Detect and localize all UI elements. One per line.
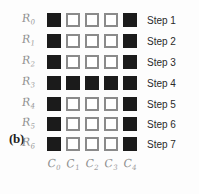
cell-empty [104, 34, 118, 48]
column-label-base: C [85, 157, 94, 170]
matrix-row: R2Step 3 [0, 52, 199, 72]
cell-filled [104, 76, 118, 90]
matrix-row-cells [47, 73, 137, 93]
column-label-subscript: 3 [113, 164, 118, 172]
cell-empty [85, 97, 99, 111]
cell-empty [66, 55, 80, 69]
column-label-subscript: 2 [94, 164, 99, 172]
step-label: Step 5 [147, 99, 176, 110]
step-label: Step 4 [147, 78, 176, 89]
matrix-row-cells [47, 114, 137, 134]
cell-empty [85, 137, 99, 151]
cell-empty [104, 55, 118, 69]
column-label: C1 [65, 156, 81, 173]
cell-filled [85, 76, 99, 90]
row-label-subscript: 3 [30, 82, 35, 90]
matrix-row: R4Step 5 [0, 94, 199, 114]
row-label: R6 [21, 135, 46, 152]
cell-empty [85, 55, 99, 69]
cell-filled [47, 117, 61, 131]
cell-filled [47, 34, 61, 48]
column-label: C0 [47, 157, 62, 173]
column-label: C3 [103, 156, 118, 172]
column-label-subscript: 4 [132, 164, 137, 172]
matrix-row: R0Step 1 [0, 10, 199, 30]
cell-filled [47, 76, 61, 90]
step-label: Step 2 [147, 36, 176, 47]
matrix-row: R5Step 6 [0, 114, 199, 134]
cell-filled [123, 97, 137, 111]
column-label-base: C [47, 157, 56, 170]
matrix-row: R6Step 7 [0, 134, 199, 154]
step-label: Step 7 [147, 139, 176, 150]
cell-empty [66, 137, 80, 151]
cell-filled [123, 34, 137, 48]
row-label-subscript: 2 [30, 61, 35, 69]
cell-empty [66, 97, 80, 111]
step-label: Step 1 [147, 15, 176, 26]
matrix-row-cells [47, 52, 137, 72]
matrix-row-cells [47, 134, 137, 154]
row-label-subscript: 6 [30, 143, 35, 151]
cell-filled [123, 137, 137, 151]
cell-empty [104, 117, 118, 131]
cell-filled [123, 117, 137, 131]
row-label: R1 [21, 32, 46, 49]
cell-empty [85, 117, 99, 131]
column-label: C4 [123, 157, 138, 173]
matrix-row: R1Step 2 [0, 31, 199, 51]
matrix-row: R3Step 4 [0, 73, 199, 93]
step-label: Step 6 [147, 119, 176, 130]
cell-filled [66, 76, 80, 90]
row-label: R3 [21, 74, 46, 91]
column-labels: C0C1C2C3C4 [47, 157, 137, 172]
step-label: Step 3 [147, 57, 176, 68]
row-label-subscript: 1 [30, 40, 35, 48]
cell-filled [47, 55, 61, 69]
column-label-subscript: 1 [75, 164, 80, 172]
matrix-step-diagram: (b) R0Step 1R1Step 2R2Step 3R3Step 4R4St… [0, 0, 199, 194]
cell-filled [47, 97, 61, 111]
cell-filled [123, 76, 137, 90]
cell-filled [47, 137, 61, 151]
row-label: R4 [21, 95, 46, 112]
row-label: R0 [21, 11, 46, 28]
row-label: R5 [21, 115, 46, 132]
cell-empty [66, 117, 80, 131]
row-label-subscript: 0 [30, 19, 35, 27]
cell-empty [66, 13, 80, 27]
column-label-base: C [123, 157, 132, 170]
cell-filled [123, 13, 137, 27]
cell-empty [66, 34, 80, 48]
cell-empty [85, 34, 99, 48]
cell-empty [104, 137, 118, 151]
cell-empty [85, 13, 99, 27]
row-label: R2 [21, 53, 46, 70]
matrix-row-cells [47, 10, 137, 30]
column-label-subscript: 0 [56, 164, 61, 172]
cell-empty [104, 13, 118, 27]
cell-filled [47, 13, 61, 27]
cell-empty [104, 97, 118, 111]
matrix-row-cells [47, 94, 137, 114]
column-label: C2 [85, 157, 100, 173]
matrix-row-cells [47, 31, 137, 51]
row-label-subscript: 5 [30, 123, 35, 131]
row-label-subscript: 4 [30, 103, 35, 111]
cell-filled [123, 55, 137, 69]
